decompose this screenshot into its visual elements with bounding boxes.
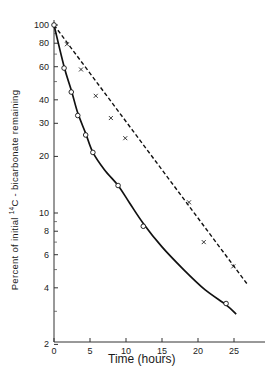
y-tick-label: 60: [39, 62, 49, 72]
y-axis-title-suffix: C - bicarbonate remaining: [9, 90, 20, 207]
y-tick-label: 30: [39, 118, 49, 128]
y-axis-title-superscript: 14: [8, 207, 15, 215]
circle-marker: [62, 66, 67, 71]
solid-fit-curve: [54, 25, 236, 314]
y-axis-title: Percent of initial 14C - bicarbonate rem…: [8, 90, 20, 291]
y-tick-label: 6: [44, 250, 49, 260]
y-tick-label: 20: [39, 151, 49, 161]
y-tick-label: 40: [39, 95, 49, 105]
y-tick-label: 80: [39, 38, 49, 48]
series-lines: [54, 25, 247, 314]
cross-marker: [202, 240, 206, 244]
circle-marker: [91, 150, 96, 155]
y-tick-label: 2: [44, 339, 49, 349]
circle-marker: [52, 23, 57, 28]
x-tick-label: 25: [229, 346, 239, 356]
circle-marker: [224, 301, 229, 306]
x-axis-title: Time (hours): [108, 352, 176, 366]
circle-marker: [69, 90, 74, 95]
x-tick-label: 0: [51, 346, 56, 356]
circle-marker: [116, 183, 121, 188]
y-tick-label: 4: [44, 283, 49, 293]
x-tick-label: 5: [87, 346, 92, 356]
y-tick-label: 8: [44, 226, 49, 236]
cross-marker: [94, 94, 98, 98]
circle-marker: [83, 133, 88, 138]
circle-marker: [75, 113, 80, 118]
y-tick-label: 100: [34, 20, 49, 30]
x-tick-label: 20: [193, 346, 203, 356]
y-tick-label: 10: [39, 208, 49, 218]
circle-marker: [141, 224, 146, 229]
cross-marker: [187, 200, 191, 204]
series-markers: [52, 23, 236, 306]
cross-marker: [79, 67, 83, 71]
y-axis-title-wrap: Percent of initial 14C - bicarbonate rem…: [4, 60, 24, 320]
chart-canvas: 24681020304060801000510152025: [0, 0, 278, 384]
y-axis-title-prefix: Percent of initial: [9, 214, 20, 290]
cross-marker: [109, 116, 113, 120]
dashed-fit-line: [54, 25, 247, 284]
cross-marker: [123, 136, 127, 140]
